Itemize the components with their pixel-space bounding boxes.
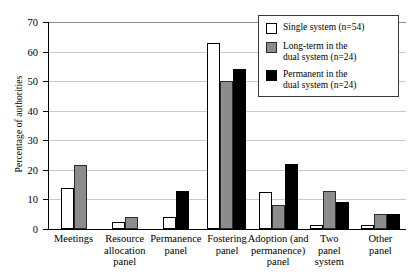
legend-swatch-single-system-icon (266, 23, 277, 34)
legend-item: Permanent in the dual system (n=24) (266, 69, 392, 90)
bar-longterm (74, 165, 87, 229)
bar-longterm (125, 217, 138, 229)
bar-chart: Percentage of authorities 01020304050607… (0, 0, 412, 279)
bar-group (150, 22, 201, 229)
bar-permanent (176, 191, 189, 229)
bar-longterm (374, 214, 387, 229)
bar-group (48, 22, 99, 229)
bar-group (99, 22, 150, 229)
y-axis-tick-label: 60 (28, 46, 39, 57)
bar-longterm (323, 191, 336, 229)
y-axis-tick-labels: 010203040506070 (0, 22, 44, 229)
bar-permanent (336, 202, 349, 229)
bar-permanent (387, 214, 400, 229)
bar-single (112, 222, 125, 229)
bar-permanent (285, 164, 298, 229)
y-axis-tick-label: 30 (28, 135, 39, 146)
y-axis-tick-label: 40 (28, 105, 39, 116)
legend-label: Single system (n=54) (283, 22, 364, 33)
bar-single (207, 43, 220, 229)
x-axis-line (48, 229, 406, 230)
y-axis-tick-label: 20 (28, 164, 39, 175)
legend-swatch-long-term-dual-icon (266, 42, 277, 53)
bar-longterm (220, 81, 233, 229)
legend-item: Single system (n=54) (266, 22, 392, 34)
legend-swatch-permanent-dual-icon (266, 70, 277, 81)
legend: Single system (n=54) Long-term in the du… (258, 15, 399, 97)
bar-single (163, 217, 176, 229)
y-axis-tick-label: 10 (28, 194, 39, 205)
bar-single (61, 188, 74, 229)
bar-single (259, 192, 272, 229)
bar-group (201, 22, 252, 229)
legend-label: Permanent in the dual system (n=24) (283, 69, 356, 90)
legend-item: Long-term in the dual system (n=24) (266, 41, 392, 62)
y-axis-line (48, 22, 49, 230)
y-axis-tick-label: 70 (28, 17, 39, 28)
bar-permanent (233, 69, 246, 229)
x-axis-label: Other panel (335, 233, 412, 256)
legend-label: Long-term in the dual system (n=24) (283, 41, 356, 62)
y-axis-tick-label: 50 (28, 76, 39, 87)
bar-longterm (272, 205, 285, 229)
